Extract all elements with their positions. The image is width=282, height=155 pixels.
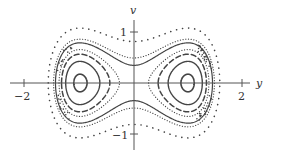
scatter-dot [60,108,62,110]
scatter-dot [210,98,212,100]
scatter-dot [203,52,205,54]
scatter-dot [207,102,209,104]
scatter-dot [58,62,60,64]
tick-label-v-neg1: −1 [112,129,128,142]
scatter-dot [211,68,213,70]
scatter-dot [59,102,61,104]
scatter-dot [200,50,202,52]
scatter-dot [65,48,67,50]
scatter-dot [209,105,211,107]
scatter-dot [58,95,60,97]
scatter-dot [198,119,200,121]
scatter-dot [206,59,208,61]
scatter-dot [198,51,200,53]
scatter-dot [63,50,65,52]
scatter-dot [209,63,211,65]
scatter-dot [203,108,205,110]
axis-label-v: v [130,4,137,17]
tick-label-v-pos1: 1 [120,26,127,39]
scatter-dot [206,111,208,113]
scatter-dot [209,61,211,63]
scatter-dot [198,48,200,50]
phase-portrait-diagram: −2 2 1 −1 v y [0,0,282,155]
scatter-dot [209,95,211,97]
scatter-dot [205,61,207,63]
scatter-dot [67,51,69,53]
scatter-dot [64,112,66,114]
scatter-dot [205,108,207,110]
scatter-dot [205,113,207,115]
scatter-dot [63,108,65,110]
scatter-dot [59,99,61,101]
scatter-dot [204,110,206,112]
scatter-dot [68,118,70,120]
tick-label-x-neg2: −2 [14,90,30,103]
scatter-dot [205,53,207,55]
scatter-dot [206,105,208,107]
scatter-dot [57,70,59,72]
scatter-dot [199,116,201,118]
tick-label-x-pos2: 2 [238,90,245,103]
scatter-dot [200,46,202,48]
scatter-dot [200,113,202,115]
scatter-dot [202,54,204,56]
scatter-dot [208,65,210,67]
scatter-dot [196,118,198,120]
scatter-dot [67,112,69,114]
scatter-dot [201,49,203,51]
axis-label-y: y [255,77,263,90]
scatter-dot [58,98,60,100]
scatter-dot [59,106,61,108]
scatter-dot [204,56,206,58]
scatter-dot [205,55,207,57]
scatter-dot [204,59,206,61]
scatter-dot [65,114,67,116]
scatter-dot [62,60,64,62]
scatter-dot [60,65,62,67]
scatter-dot [70,47,72,49]
